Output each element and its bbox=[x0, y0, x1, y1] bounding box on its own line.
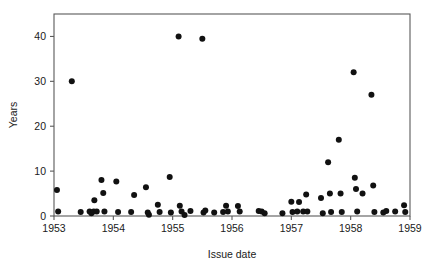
plot-area-frame bbox=[54, 14, 410, 216]
data-point bbox=[167, 174, 173, 180]
data-point bbox=[318, 195, 324, 201]
x-tick-label: 1953 bbox=[42, 222, 66, 234]
data-point bbox=[177, 203, 183, 209]
data-point bbox=[78, 209, 84, 215]
data-point bbox=[320, 210, 326, 216]
data-point bbox=[279, 210, 285, 216]
x-tick-label: 1955 bbox=[161, 222, 185, 234]
data-point bbox=[294, 209, 300, 215]
data-point bbox=[223, 203, 229, 209]
data-point bbox=[91, 197, 97, 203]
y-axis-ticks bbox=[50, 36, 54, 216]
data-point bbox=[401, 202, 407, 208]
y-tick-label: 40 bbox=[34, 30, 46, 42]
x-axis-title: Issue date bbox=[208, 248, 257, 260]
data-point bbox=[55, 209, 61, 215]
data-point bbox=[168, 209, 174, 215]
data-point bbox=[113, 178, 119, 184]
data-point bbox=[94, 209, 100, 215]
x-tick-label: 1956 bbox=[220, 222, 244, 234]
data-point bbox=[354, 209, 360, 215]
data-point bbox=[288, 199, 294, 205]
data-point bbox=[157, 209, 163, 215]
x-tick-label: 1957 bbox=[280, 222, 304, 234]
data-point bbox=[101, 209, 107, 215]
y-tick-label: 0 bbox=[40, 210, 46, 222]
data-point bbox=[211, 209, 217, 215]
x-tick-label: 1954 bbox=[102, 222, 126, 234]
data-point bbox=[353, 186, 359, 192]
data-point bbox=[325, 159, 331, 165]
data-point bbox=[202, 208, 208, 214]
data-point bbox=[338, 191, 344, 197]
data-point bbox=[199, 36, 205, 42]
y-tick-label: 20 bbox=[34, 120, 46, 132]
data-point bbox=[327, 191, 333, 197]
data-point bbox=[143, 184, 149, 190]
data-point bbox=[182, 212, 188, 218]
data-point bbox=[371, 209, 377, 215]
x-axis-tick-labels: 1953195419551956195719581959 bbox=[42, 222, 422, 234]
y-tick-label: 10 bbox=[34, 165, 46, 177]
y-tick-label: 30 bbox=[34, 75, 46, 87]
data-point bbox=[100, 190, 106, 196]
data-point bbox=[352, 175, 358, 181]
chart-canvas: 010203040 1953195419551956195719581959 Y… bbox=[0, 0, 426, 275]
data-point bbox=[351, 69, 357, 75]
data-point bbox=[155, 202, 161, 208]
data-point bbox=[235, 203, 241, 209]
data-point bbox=[402, 209, 408, 215]
data-point bbox=[370, 182, 376, 188]
data-point bbox=[303, 191, 309, 197]
data-point bbox=[115, 209, 121, 215]
data-point bbox=[187, 208, 193, 214]
data-point bbox=[225, 209, 231, 215]
data-point bbox=[146, 212, 152, 218]
data-point bbox=[360, 191, 366, 197]
y-axis-title: Years bbox=[7, 102, 19, 128]
x-tick-label: 1958 bbox=[339, 222, 363, 234]
data-point bbox=[98, 177, 104, 183]
data-point bbox=[131, 192, 137, 198]
scatter-plot-figure: 010203040 1953195419551956195719581959 Y… bbox=[0, 0, 426, 275]
x-axis-ticks bbox=[54, 216, 410, 220]
data-point bbox=[392, 209, 398, 215]
data-point bbox=[237, 209, 243, 215]
data-point bbox=[368, 92, 374, 98]
data-point bbox=[54, 187, 60, 193]
y-axis-tick-labels: 010203040 bbox=[34, 30, 46, 222]
data-point bbox=[383, 208, 389, 214]
data-point bbox=[128, 209, 134, 215]
data-point bbox=[339, 209, 345, 215]
data-point bbox=[176, 33, 182, 39]
data-point bbox=[304, 209, 310, 215]
data-point bbox=[328, 209, 334, 215]
x-tick-label: 1959 bbox=[398, 222, 422, 234]
data-point bbox=[69, 78, 75, 84]
data-point bbox=[336, 137, 342, 143]
data-point bbox=[296, 199, 302, 205]
data-point bbox=[262, 210, 268, 216]
